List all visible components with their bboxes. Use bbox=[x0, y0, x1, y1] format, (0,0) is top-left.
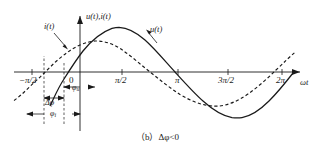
phi-u-subscript: u bbox=[76, 86, 79, 92]
phi-u-label: φu bbox=[72, 84, 79, 92]
curve-label-u: u(t) bbox=[150, 25, 162, 34]
x-tick-two-pi: 2π bbox=[276, 76, 285, 85]
x-tick-half-pi: π/2 bbox=[115, 76, 127, 85]
i-label-arrowhead bbox=[63, 44, 68, 49]
voltage-curve-u bbox=[50, 27, 293, 118]
figure-container: u(t),i(t) ωt i(t) u(t) −π/2 0 π/2 π 3π/2… bbox=[0, 0, 315, 153]
phi-i-label: φi bbox=[50, 110, 56, 118]
x-axis-arrow bbox=[292, 69, 300, 75]
delta-phi-symbol: Δφ bbox=[45, 98, 54, 107]
delta-phi-label: Δφ bbox=[45, 99, 54, 107]
curve-label-i: i(t) bbox=[44, 22, 54, 31]
phi-i-arrow-left bbox=[26, 111, 33, 116]
y-axis-label: u(t),i(t) bbox=[86, 12, 111, 21]
x-tick-neg-half-pi: −π/2 bbox=[19, 76, 37, 85]
x-tick-pi: π bbox=[175, 76, 180, 85]
figure-caption: （b）Δφ<0 bbox=[0, 133, 315, 142]
x-tick-three-half-pi: 3π/2 bbox=[218, 76, 234, 85]
x-axis-label: ωt bbox=[300, 78, 308, 87]
phi-i-subscript: i bbox=[54, 112, 56, 118]
phi-u-arrow-left bbox=[63, 84, 70, 89]
y-axis-arrow bbox=[77, 16, 83, 24]
